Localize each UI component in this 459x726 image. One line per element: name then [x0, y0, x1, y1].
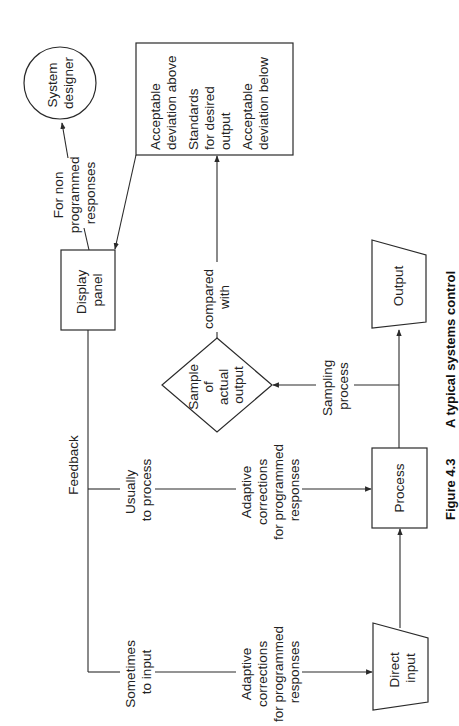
- sample-diamond-node: Sample of actual output: [162, 338, 272, 432]
- systems-control-diagram: System designer Acceptable deviation abo…: [0, 0, 459, 726]
- display-panel-node: Display panel: [61, 250, 115, 330]
- caption-title: A typical systems control: [443, 271, 458, 428]
- standards-label: Acceptable deviation above Standards for…: [148, 52, 271, 150]
- display-panel-label: Display panel: [74, 266, 105, 314]
- edge-sampling-process: Sampling process: [273, 356, 399, 416]
- edge-feedback-trunk: Feedback: [66, 330, 88, 672]
- system-designer-node: System designer: [24, 47, 96, 119]
- feedback-label: Feedback: [66, 435, 81, 495]
- usually-to-process-label: Usually to process: [123, 459, 154, 522]
- sampling-process-label: Sampling process: [320, 356, 351, 416]
- direct-input-node: Direct input: [373, 623, 428, 710]
- edge-standards-to-display: [115, 155, 136, 249]
- edge-feedback-to-process: Usually to process Adaptive corrections …: [88, 440, 371, 540]
- caption-number: Figure 4.3: [443, 459, 458, 520]
- process-node: Process: [372, 448, 427, 528]
- edge-compared-with: compared with: [201, 156, 232, 338]
- adaptive-process-label: Adaptive corrections for programmed resp…: [239, 440, 302, 540]
- sample-label: Sample of actual output: [186, 360, 246, 410]
- adaptive-input-label: Adaptive corrections for programmed resp…: [239, 622, 302, 722]
- non-programmed-label: For non programmed responses: [51, 153, 98, 233]
- process-label: Process: [392, 463, 407, 512]
- edge-feedback-to-input: Sometimes to input Adaptive corrections …: [88, 622, 372, 722]
- output-label: Output: [391, 265, 406, 306]
- system-designer-label: System designer: [45, 57, 76, 109]
- compared-with-label: compared with: [201, 265, 232, 329]
- sometimes-to-input-label: Sometimes to input: [123, 636, 154, 707]
- direct-input-label: Direct input: [387, 648, 418, 687]
- standards-node: Acceptable deviation above Standards for…: [136, 43, 293, 155]
- edge-non-programmed: For non programmed responses: [51, 123, 98, 250]
- figure-caption: Figure 4.3 A typical systems control: [443, 271, 458, 520]
- output-node: Output: [372, 240, 426, 328]
